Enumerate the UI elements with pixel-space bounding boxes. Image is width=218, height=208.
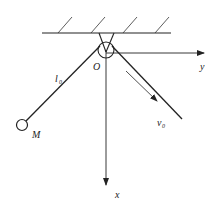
origin-label: O bbox=[93, 61, 100, 72]
y-axis-label: y bbox=[199, 61, 205, 72]
x-axis-label: x bbox=[114, 189, 120, 200]
svg-text:0: 0 bbox=[162, 123, 165, 129]
right-rod bbox=[112, 46, 182, 119]
hatch-mark bbox=[91, 17, 105, 33]
svg-text:0: 0 bbox=[59, 79, 62, 85]
mass-label: M bbox=[31, 129, 41, 140]
velocity-label: v 0 bbox=[157, 117, 165, 129]
velocity-arrow bbox=[126, 71, 157, 101]
pendulum-rod bbox=[26, 46, 100, 121]
hatch-mark bbox=[58, 17, 72, 33]
hatch-mark bbox=[123, 17, 137, 33]
svg-text:l: l bbox=[55, 73, 58, 84]
ceiling bbox=[42, 17, 171, 33]
length-label: l 0 bbox=[55, 73, 62, 85]
hatch-mark bbox=[155, 17, 169, 33]
mass-bob bbox=[17, 120, 28, 131]
pendulum-diagram: O y x M l 0 v 0 bbox=[0, 0, 218, 208]
